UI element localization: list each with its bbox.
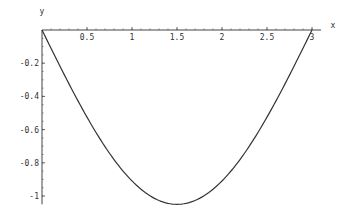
- y-tick-label: -1: [29, 192, 39, 201]
- y-axis-label: y: [40, 7, 45, 16]
- axes: 0.511.522.53-0.2-0.4-0.6-0.8-1xy: [20, 7, 336, 204]
- y-tick-label: -0.6: [20, 126, 39, 135]
- line-chart: 0.511.522.53-0.2-0.4-0.6-0.8-1xy: [0, 0, 349, 220]
- x-tick-label: 1: [130, 33, 135, 42]
- x-tick-label: 2: [220, 33, 225, 42]
- y-tick-label: -0.8: [20, 159, 39, 168]
- y-tick-label: -0.4: [20, 92, 39, 101]
- x-axis-label: x: [331, 21, 336, 30]
- data-curve: [42, 30, 312, 204]
- y-tick-label: -0.2: [20, 59, 39, 68]
- x-tick-label: 1.5: [170, 33, 185, 42]
- x-tick-label: 0.5: [80, 33, 95, 42]
- x-tick-label: 2.5: [260, 33, 275, 42]
